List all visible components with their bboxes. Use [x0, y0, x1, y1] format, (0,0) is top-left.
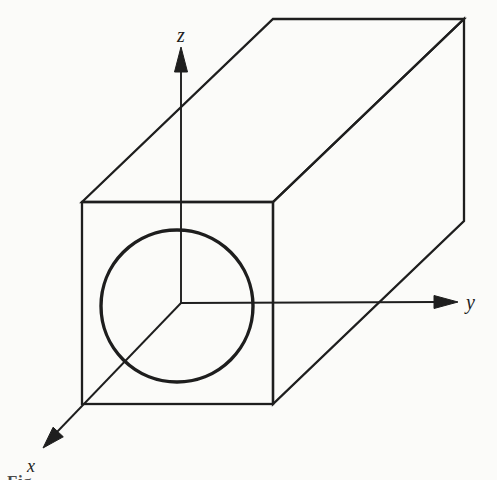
z-axis-arrowhead-icon	[175, 47, 188, 72]
y-axis-label: y	[464, 291, 475, 314]
x-axis-arrowhead-icon	[43, 427, 63, 448]
box-right-face	[273, 19, 464, 404]
prism-with-circular-hole-diagram: z y x	[0, 0, 497, 480]
figure-caption-fragment: Fig.	[7, 473, 307, 480]
z-axis-label: z	[176, 24, 185, 46]
y-axis-line	[181, 302, 437, 303]
y-axis-arrowhead-icon	[434, 296, 458, 309]
box-top-face	[82, 19, 464, 202]
x-axis-line	[57, 303, 181, 432]
